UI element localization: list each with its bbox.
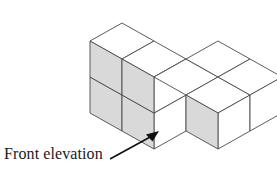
- arrow-head-icon: [146, 131, 159, 142]
- front-elevation-arrow: [108, 128, 168, 164]
- front-elevation-label: Front elevation: [4, 145, 103, 163]
- arrow-shaft: [110, 136, 152, 159]
- figure-root: Front elevation: [0, 0, 277, 171]
- caption-layer: Front elevation: [0, 0, 277, 171]
